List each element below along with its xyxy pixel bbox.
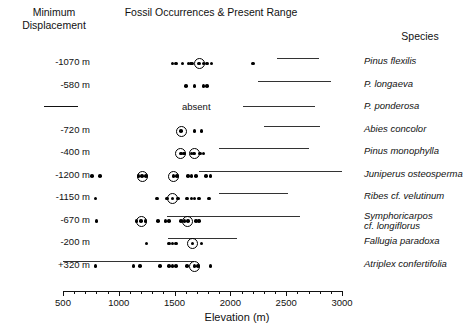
axis-tick-label: 500 bbox=[43, 297, 83, 308]
axis-tick-major bbox=[63, 291, 64, 296]
axis-tick-minor bbox=[320, 291, 321, 294]
axis-tick-label: 3000 bbox=[322, 297, 362, 308]
axis-tick-minor bbox=[141, 291, 142, 294]
axis-tick-major bbox=[286, 291, 287, 296]
axis-line bbox=[63, 291, 342, 292]
axis-tick-label: 2000 bbox=[210, 297, 250, 308]
axis-tick-minor bbox=[85, 291, 86, 294]
x-axis: 50010001500200025003000 bbox=[0, 0, 474, 334]
axis-tick-minor bbox=[152, 291, 153, 294]
axis-tick-minor bbox=[253, 291, 254, 294]
axis-tick-minor bbox=[163, 291, 164, 294]
axis-tick-minor bbox=[130, 291, 131, 294]
axis-tick-minor bbox=[108, 291, 109, 294]
axis-tick-minor bbox=[74, 291, 75, 294]
axis-tick-minor bbox=[297, 291, 298, 294]
axis-tick-minor bbox=[186, 291, 187, 294]
axis-tick-minor bbox=[208, 291, 209, 294]
axis-tick-major bbox=[342, 291, 343, 296]
axis-tick-label: 1500 bbox=[155, 297, 195, 308]
axis-tick-minor bbox=[242, 291, 243, 294]
axis-tick-minor bbox=[219, 291, 220, 294]
axis-tick-minor bbox=[275, 291, 276, 294]
axis-tick-minor bbox=[264, 291, 265, 294]
figure-root: Minimum Displacement Fossil Occurrences … bbox=[0, 0, 474, 334]
axis-tick-major bbox=[230, 291, 231, 296]
axis-tick-minor bbox=[197, 291, 198, 294]
axis-tick-label: 2500 bbox=[266, 297, 306, 308]
axis-tick-minor bbox=[96, 291, 97, 294]
axis-tick-major bbox=[175, 291, 176, 296]
axis-tick-minor bbox=[331, 291, 332, 294]
x-axis-label: Elevation (m) bbox=[137, 311, 337, 323]
axis-tick-major bbox=[119, 291, 120, 296]
axis-tick-label: 1000 bbox=[99, 297, 139, 308]
axis-tick-minor bbox=[309, 291, 310, 294]
